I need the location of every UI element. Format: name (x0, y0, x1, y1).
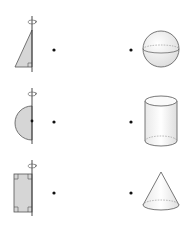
match-dot-left-1[interactable] (52, 48, 55, 51)
figure-rectangle (14, 160, 37, 216)
cylinder-top (145, 96, 177, 106)
solid-cone (143, 172, 179, 210)
match-dot-right-2[interactable] (129, 120, 132, 123)
solid-sphere (143, 31, 179, 67)
sphere-outline (143, 31, 179, 67)
match-dot-right-3[interactable] (129, 191, 132, 194)
rotation-arrow-icon (28, 20, 37, 24)
rotation-arrow-icon (28, 164, 37, 168)
figure-semicircle (15, 88, 37, 144)
match-dot-left-3[interactable] (52, 191, 55, 194)
figure-right-triangle (15, 16, 37, 72)
center-point (31, 120, 34, 123)
matching-diagram (0, 0, 192, 230)
semicircle-shape (15, 106, 32, 140)
solid-cylinder (145, 96, 177, 146)
match-dot-right-1[interactable] (129, 48, 132, 51)
rotation-arrow-icon (28, 92, 37, 96)
triangle-shape (15, 30, 32, 67)
match-dot-left-2[interactable] (52, 120, 55, 123)
rectangle-shape (14, 174, 32, 212)
